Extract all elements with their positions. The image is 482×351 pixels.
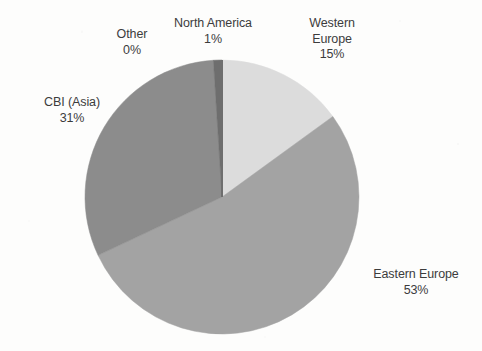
slice-label-eastern-europe-name: Eastern Europe (352, 267, 480, 283)
slice-label-eastern-europe: Eastern Europe 53% (352, 267, 480, 298)
slice-label-western-europe: Western Europe 15% (286, 16, 378, 63)
pie-chart-figure: Other 0% North America 1% Western Europe… (0, 0, 482, 351)
slice-label-cbi-asia: CBI (Asia) 31% (12, 95, 132, 126)
pie-chart-canvas (0, 0, 482, 351)
slice-label-north-america-percent: 1% (152, 32, 274, 48)
slice-label-north-america-name: North America (152, 16, 274, 32)
slice-label-eastern-europe-percent: 53% (352, 283, 480, 299)
slice-label-western-europe-name2: Europe (286, 32, 378, 48)
slice-label-western-europe-name1: Western (286, 16, 378, 32)
slice-label-cbi-asia-percent: 31% (12, 111, 132, 127)
slice-label-north-america: North America 1% (152, 16, 274, 47)
slice-label-cbi-asia-name: CBI (Asia) (12, 95, 132, 111)
slice-label-western-europe-percent: 15% (286, 47, 378, 63)
